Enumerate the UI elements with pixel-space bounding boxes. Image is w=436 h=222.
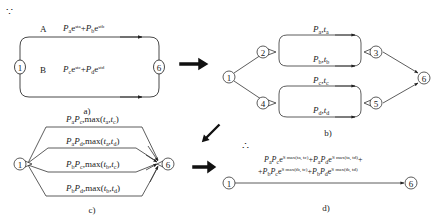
node-6-label: 6	[166, 160, 171, 170]
therefore-symbol: ∴	[242, 140, 249, 152]
panel-c-caption: c)	[89, 205, 96, 215]
diagram-canvas: ∵ 1 6 A B Paesta+Pbestb Pcestc+Pdestd a)	[0, 0, 436, 222]
edge-d-label: Pd,td	[312, 105, 329, 116]
panel-b: 1 2 3 4 5 6 Pa,ta Pb,tb Pc,tc Pd,td b)	[223, 24, 430, 138]
path-a-line	[20, 37, 159, 62]
transition-arrow-right-icon	[180, 59, 207, 69]
node-3-label: 3	[374, 48, 379, 58]
path-b-line	[20, 72, 159, 97]
node-6-label: 6	[157, 63, 162, 73]
path-ad-label: PaPd,max(ta,td)	[65, 136, 119, 147]
edge-b-label: Pb,tb	[312, 54, 329, 65]
node-6-label: 6	[409, 179, 414, 189]
node-2-label: 2	[261, 48, 266, 58]
path-ac-label: PaPc,max(ta,tc)	[65, 114, 119, 125]
node-1-label: 1	[227, 179, 232, 189]
path-bd-label: PbPd,max(tb,td)	[65, 183, 120, 194]
formula-line-2: +PbPceS max(tb, tc)+PbPdeS max(tb, td)	[258, 167, 358, 177]
node-1-label: 1	[227, 73, 232, 83]
panel-c: 1 6 PaPc,max(ta,tc) PaPd,max(ta,td) PbPc…	[14, 114, 174, 215]
path-b-label: Pcestc+Pdestd	[62, 64, 105, 75]
edge-c-label: Pc,tc	[312, 75, 329, 86]
because-symbol: ∵	[6, 6, 13, 18]
node-5-label: 5	[374, 99, 379, 109]
node-1-label: 1	[18, 160, 23, 170]
path-bc-label: PbPc,max(tb,tc)	[65, 159, 119, 170]
path-a-name: A	[40, 24, 47, 34]
transition-arrow-diagonal-icon	[199, 122, 222, 145]
panel-d-caption: d)	[322, 203, 330, 213]
transition-arrow-right-icon	[193, 162, 215, 172]
node-6-label: 6	[422, 74, 427, 84]
panel-a: 1 6 A B Paesta+Pbestb Pcestc+Pdestd a)	[15, 23, 165, 116]
formula-line-1: PaPceS max(ta, tc)+PaPdeS max(ta, td)+	[263, 155, 363, 165]
node-4-label: 4	[261, 99, 266, 109]
node-1-label: 1	[18, 63, 23, 73]
panel-d: ∴ PaPceS max(ta, tc)+PaPdeS max(ta, td)+…	[223, 140, 417, 213]
panel-b-caption: b)	[324, 128, 332, 138]
edge-a-label: Pa,ta	[312, 24, 329, 35]
path-b-name: B	[40, 65, 46, 75]
path-a-label: Paesta+Pbestb	[62, 23, 105, 34]
